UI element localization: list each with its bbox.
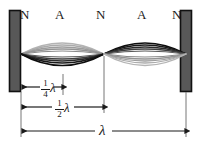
wave-left-lobe (21, 43, 104, 66)
wave-right-lobe (104, 43, 186, 66)
node-label-2: N (96, 8, 105, 21)
left-wall (10, 11, 21, 92)
antinode-label-1: A (55, 8, 64, 21)
quarter-lambda-fraction: 1 4 (41, 79, 50, 99)
right-wall (181, 11, 192, 92)
fraction-denominator: 2 (57, 110, 62, 119)
standing-wave-diagram: N A N A N 1 4 λ 1 2 λ λ (0, 0, 208, 145)
node-label-3: N (172, 8, 181, 21)
fraction-denominator: 4 (43, 90, 48, 99)
full-lambda-symbol: λ (99, 123, 106, 138)
quarter-lambda-symbol: λ (50, 81, 56, 94)
half-lambda-fraction: 1 2 (55, 99, 64, 119)
half-lambda-symbol: λ (64, 101, 70, 114)
antinode-label-2: A (137, 8, 146, 21)
fraction-numerator: 1 (57, 99, 62, 108)
node-label-1: N (20, 8, 29, 21)
fraction-numerator: 1 (43, 79, 48, 88)
